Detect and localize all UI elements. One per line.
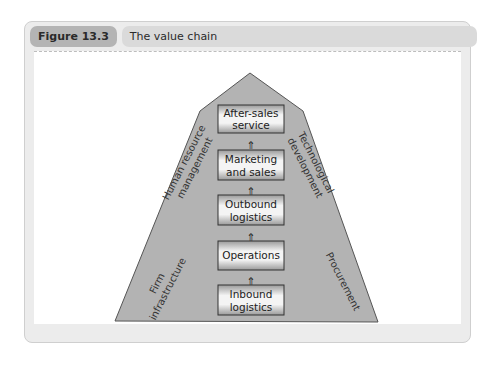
box-label-line1: Marketing [225, 153, 277, 165]
value-chain-diagram: After-sales service ⇑ Marketing and sale… [0, 0, 493, 369]
box-label-line2: and sales [226, 166, 276, 178]
box-label-line1: After-sales [223, 107, 278, 119]
up-arrow-icon: ⇑ [247, 139, 256, 151]
primary-activity-after-sales-service: After-sales service [218, 105, 284, 133]
primary-activity-inbound-logistics: Inbound logistics [218, 285, 284, 315]
box-label: Operations [222, 249, 280, 261]
primary-activity-marketing-and-sales: Marketing and sales [218, 150, 284, 180]
primary-activity-operations: Operations [218, 241, 284, 270]
box-label-line1: Outbound [225, 198, 277, 210]
box-label-line1: Inbound [230, 288, 273, 300]
box-label-line2: logistics [230, 301, 273, 313]
primary-activity-outbound-logistics: Outbound logistics [218, 195, 284, 225]
box-label-line2: service [232, 119, 270, 131]
box-label-line2: logistics [230, 211, 273, 223]
